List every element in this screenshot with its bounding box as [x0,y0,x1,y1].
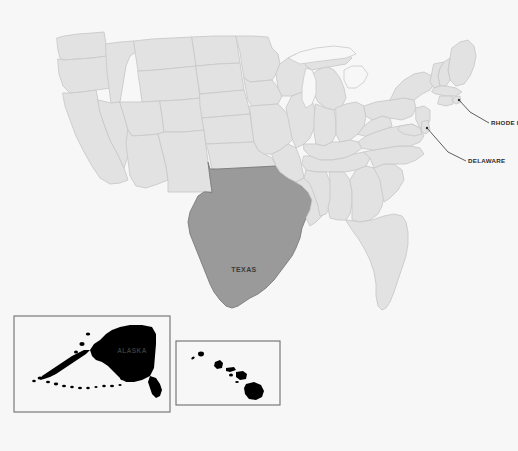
state-kansas [202,114,254,144]
delaware-leader-line [427,128,466,161]
texas-label: TEXAS [231,266,256,273]
lake-huron-erie [344,66,368,88]
state-washington [57,32,107,60]
state-delaware [422,120,430,134]
state-montana [134,37,196,71]
state-alabama [328,172,352,220]
alaska-peninsula [40,350,90,380]
delaware-label: DELAWARE [468,157,505,164]
island-kahoolawe [235,381,239,383]
state-south-dakota [196,63,244,94]
state-colorado [160,98,204,132]
state-minnesota [236,36,280,82]
island-kauai [198,352,204,357]
callout-rhode-island: RHODE I [458,99,518,126]
contiguous-states-group [57,32,476,310]
island-oahu [214,360,223,369]
state-iowa [244,78,282,106]
delaware-leader-dot [426,127,428,129]
state-new-mexico [158,130,212,192]
kodiak-island [120,376,128,381]
state-pennsylvania [364,98,416,120]
us-map-svg: TEXAS RHODE I DELAWARE [0,0,518,451]
callout-delaware: DELAWARE [426,127,506,164]
state-new-york [390,72,434,100]
rhode-island-leader-dot [458,99,460,101]
island-lanai [229,373,233,376]
state-north-dakota [192,36,240,66]
state-indiana [314,104,336,146]
state-massachusetts [432,86,462,96]
island-maui [236,371,247,380]
state-florida [346,214,408,310]
state-wyoming [138,66,200,102]
state-idaho [106,41,136,103]
alaska-inset: ALASKA [14,316,170,412]
state-maine [448,40,476,86]
state-connecticut [438,96,453,106]
us-map-figure: TEXAS RHODE I DELAWARE [0,0,518,451]
island-molokai [226,367,236,372]
hawaii-inset [176,341,280,405]
rhode-island-leader-line [459,100,489,123]
rhode-island-label: RHODE I [491,119,518,126]
state-ohio [336,102,366,142]
alaska-southeast-panhandle [148,376,162,398]
island-niihau [191,356,195,360]
hawaii-inset-frame [176,341,280,405]
island-hawaii [244,382,264,400]
hawaiian-islands [191,352,264,400]
alaska-label: ALASKA [117,347,146,354]
state-nebraska [200,90,250,118]
lake-michigan [302,68,316,108]
state-oregon [58,56,111,93]
